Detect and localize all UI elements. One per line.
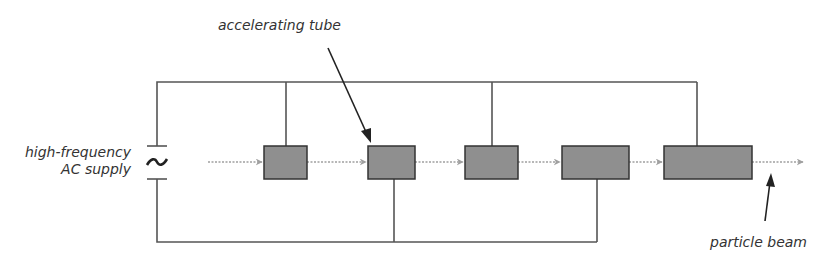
beam-pointer-arrow	[765, 173, 775, 221]
linac-diagram	[0, 0, 824, 271]
ac-supply-symbol	[147, 146, 167, 179]
tube-2	[368, 146, 415, 179]
beam-label: particle beam	[710, 234, 807, 251]
tube-4	[562, 146, 629, 179]
tube-3	[465, 146, 518, 179]
tube-label: accelerating tube	[218, 17, 341, 34]
supply-label-line2: AC supply	[61, 161, 131, 178]
bottom-bus-wire	[157, 179, 597, 242]
tube-5	[664, 146, 752, 179]
accelerating-tubes	[264, 146, 752, 179]
tube-1	[264, 146, 307, 179]
supply-label-line1: high-frequency	[25, 144, 131, 161]
sine-wave-icon	[147, 159, 167, 165]
tube-pointer-arrow	[328, 48, 371, 143]
top-bus-wire	[157, 82, 697, 146]
